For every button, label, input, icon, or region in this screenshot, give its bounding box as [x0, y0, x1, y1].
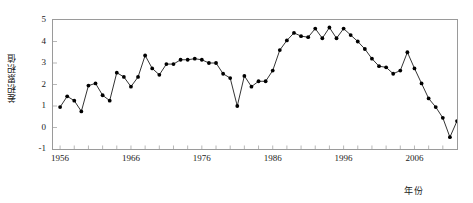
- data-point-marker: [136, 75, 140, 79]
- data-point-marker: [335, 36, 339, 40]
- y-tick-label: 1: [16, 100, 46, 110]
- data-point-marker: [285, 39, 289, 43]
- data-point-marker: [441, 116, 445, 120]
- data-point-marker: [363, 47, 367, 51]
- data-point-marker: [391, 72, 395, 76]
- data-point-marker: [108, 99, 112, 103]
- data-point-markers: [58, 26, 457, 139]
- data-point-marker: [257, 79, 261, 83]
- data-point-marker: [455, 119, 457, 123]
- data-point-marker: [172, 62, 176, 66]
- data-point-marker: [356, 40, 360, 44]
- data-point-marker: [58, 105, 62, 109]
- data-point-marker: [214, 61, 218, 65]
- data-point-marker: [129, 85, 133, 89]
- series-canvas: [53, 20, 457, 149]
- data-point-marker: [235, 104, 239, 108]
- data-point-marker: [370, 57, 374, 61]
- data-point-marker: [398, 69, 402, 73]
- data-point-marker: [221, 72, 225, 76]
- data-point-marker: [306, 35, 310, 39]
- data-point-marker: [122, 75, 126, 79]
- data-point-marker: [264, 79, 268, 83]
- data-point-marker: [200, 58, 204, 62]
- data-point-marker: [101, 93, 105, 97]
- x-axis-title: 年份: [404, 184, 424, 197]
- data-point-marker: [320, 36, 324, 40]
- data-point-marker: [328, 26, 332, 30]
- data-point-marker: [87, 84, 91, 88]
- data-point-marker: [228, 76, 232, 80]
- data-point-marker: [115, 71, 119, 75]
- data-point-marker: [157, 73, 161, 77]
- data-point-marker: [179, 58, 183, 62]
- x-tick-label: 1976: [182, 153, 222, 163]
- data-point-marker: [349, 33, 353, 37]
- data-point-marker: [79, 109, 83, 113]
- data-point-marker: [150, 66, 154, 70]
- data-point-marker: [427, 97, 431, 101]
- data-point-marker: [299, 34, 303, 38]
- chart-figure: 差积累积值 年份 -1012345 1956196619761986199620…: [0, 0, 473, 203]
- data-point-marker: [420, 82, 424, 86]
- plot-area: [52, 19, 458, 150]
- data-point-marker: [143, 54, 147, 58]
- data-point-marker: [271, 69, 275, 73]
- y-tick-label: 4: [16, 36, 46, 46]
- data-point-marker: [342, 27, 346, 31]
- x-tick-label: 1966: [111, 153, 151, 163]
- data-point-marker: [313, 27, 317, 31]
- x-tick-label: 1956: [40, 153, 80, 163]
- data-point-marker: [193, 57, 197, 61]
- data-point-marker: [165, 62, 169, 66]
- y-tick-label: -1: [16, 143, 46, 153]
- x-tick-label: 1986: [253, 153, 293, 163]
- data-point-marker: [278, 48, 282, 52]
- data-point-marker: [242, 74, 246, 78]
- data-point-marker: [448, 135, 452, 139]
- data-point-marker: [292, 31, 296, 35]
- y-tick-label: 0: [16, 122, 46, 132]
- data-point-marker: [207, 61, 211, 65]
- data-point-marker: [186, 58, 190, 62]
- data-point-marker: [384, 65, 388, 69]
- data-point-marker: [434, 105, 438, 109]
- data-point-marker: [94, 82, 98, 86]
- y-tick-label: 3: [16, 57, 46, 67]
- data-point-marker: [405, 50, 409, 54]
- data-point-marker: [65, 94, 69, 98]
- data-point-marker: [250, 85, 254, 89]
- data-point-marker: [377, 64, 381, 68]
- y-tick-label: 2: [16, 79, 46, 89]
- data-point-marker: [72, 99, 76, 103]
- x-tick-label: 1996: [324, 153, 364, 163]
- data-point-marker: [413, 66, 417, 70]
- x-tick-label: 2006: [394, 153, 434, 163]
- y-tick-label: 5: [16, 14, 46, 24]
